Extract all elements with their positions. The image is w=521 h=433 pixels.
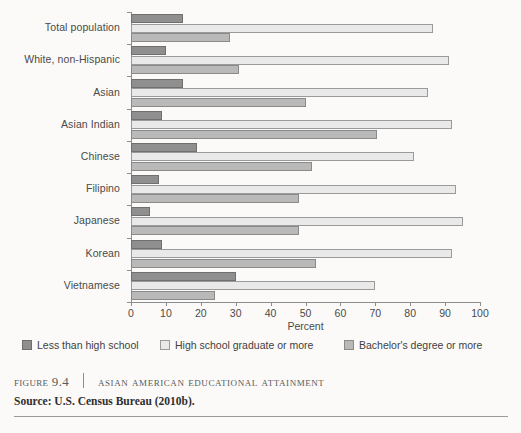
x-axis-tick	[375, 302, 376, 306]
figure-source: Source: U.S. Census Bureau (2010b).	[14, 395, 195, 407]
x-axis-tick-label: 0	[128, 307, 134, 319]
bar	[131, 185, 456, 194]
bar	[131, 143, 197, 152]
bar-group	[131, 205, 480, 237]
category-label: Total population	[45, 21, 120, 33]
bar	[131, 175, 159, 184]
bottom-divider	[14, 416, 508, 417]
legend-label: High school graduate or more	[175, 339, 313, 351]
x-axis-tick	[480, 302, 481, 306]
bar-group	[131, 141, 480, 173]
bar	[131, 162, 312, 171]
x-axis-tick-label: 100	[471, 307, 489, 319]
x-axis-tick-label: 70	[369, 307, 381, 319]
bar	[131, 226, 299, 235]
figure-number: FIGURE 9.4	[14, 374, 69, 390]
legend-label: Less than high school	[37, 339, 139, 351]
caption-divider	[83, 373, 84, 388]
x-axis-tick	[166, 302, 167, 306]
category-label: Japanese	[74, 214, 120, 226]
category-label: Korean	[86, 247, 120, 259]
legend-swatch-icon	[344, 340, 354, 350]
category-label: Chinese	[81, 150, 120, 162]
x-axis-tick-label: 60	[335, 307, 347, 319]
x-axis-tick	[131, 302, 132, 306]
bar	[131, 79, 183, 88]
x-axis-tick-label: 50	[300, 307, 312, 319]
legend-swatch-icon	[22, 340, 32, 350]
x-axis-tick-label: 30	[230, 307, 242, 319]
bar	[131, 207, 150, 216]
x-axis-tick-label: 80	[404, 307, 416, 319]
bar-group	[131, 12, 480, 44]
bar	[131, 281, 375, 290]
bar	[131, 24, 433, 33]
x-axis-tick-label: 20	[195, 307, 207, 319]
bar	[131, 217, 463, 226]
legend-item[interactable]: Bachelor's degree or more	[344, 339, 482, 351]
bar	[131, 291, 215, 300]
x-axis-tick-label: 90	[439, 307, 451, 319]
x-axis-tick	[201, 302, 202, 306]
bar-group	[131, 238, 480, 270]
x-axis-tick-label: 10	[160, 307, 172, 319]
bar	[131, 130, 377, 139]
legend-swatch-icon	[160, 340, 170, 350]
figure-title: ASIAN AMERICAN EDUCATIONAL ATTAINMENT	[98, 374, 324, 390]
x-axis-tick	[445, 302, 446, 306]
figure-page: Total populationWhite, non-HispanicAsian…	[0, 0, 521, 433]
bar	[131, 120, 452, 129]
bar	[131, 46, 166, 55]
bar	[131, 272, 236, 281]
legend-item[interactable]: High school graduate or more	[160, 339, 313, 351]
bar	[131, 249, 452, 258]
x-axis-tick	[236, 302, 237, 306]
bar	[131, 111, 162, 120]
bar-group	[131, 76, 480, 108]
bar-group	[131, 173, 480, 205]
bar-group	[131, 44, 480, 76]
bar	[131, 259, 316, 268]
x-axis-tick	[340, 302, 341, 306]
x-axis-tick-label: 40	[265, 307, 277, 319]
plot-area: 0102030405060708090100	[131, 12, 480, 302]
category-label: Asian Indian	[61, 118, 120, 130]
bar	[131, 152, 414, 161]
legend-item[interactable]: Less than high school	[22, 339, 139, 351]
x-axis-ticks: 0102030405060708090100	[131, 302, 481, 322]
category-label: Asian	[93, 86, 120, 98]
legend-label: Bachelor's degree or more	[359, 339, 482, 351]
bar	[131, 240, 162, 249]
bar-group	[131, 109, 480, 141]
bar	[131, 194, 299, 203]
bar	[131, 14, 183, 23]
category-axis-labels: Total populationWhite, non-HispanicAsian…	[0, 12, 126, 302]
bar	[131, 98, 306, 107]
bar	[131, 65, 239, 74]
x-axis-tick	[271, 302, 272, 306]
chart-legend: Less than high schoolHigh school graduat…	[14, 339, 514, 355]
bar	[131, 56, 449, 65]
bar-group	[131, 270, 480, 302]
bar	[131, 33, 230, 42]
x-axis-tick	[306, 302, 307, 306]
category-label: Vietnamese	[64, 279, 120, 291]
x-axis-title: Percent	[131, 320, 480, 332]
x-axis-tick	[410, 302, 411, 306]
category-label: Filipino	[86, 182, 120, 194]
bar-chart: Total populationWhite, non-HispanicAsian…	[0, 0, 521, 330]
figure-caption: FIGURE 9.4 ASIAN AMERICAN EDUCATIONAL AT…	[14, 371, 504, 390]
category-label: White, non-Hispanic	[24, 53, 120, 65]
bar	[131, 88, 428, 97]
